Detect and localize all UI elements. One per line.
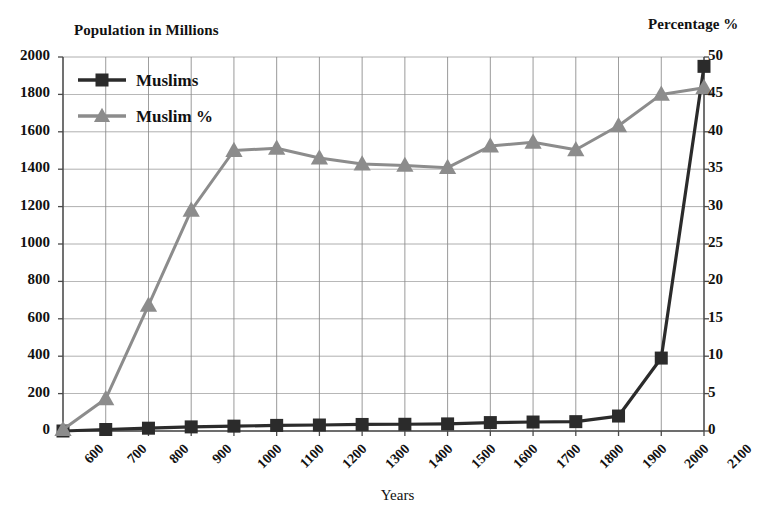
right-tick-label: 40 bbox=[708, 122, 723, 139]
left-tick-label: 200 bbox=[28, 384, 51, 401]
data-point-marker bbox=[524, 133, 541, 148]
right-tick-label: 10 bbox=[708, 346, 723, 363]
left-tick-label: 1000 bbox=[20, 234, 50, 251]
data-point-marker bbox=[227, 420, 240, 433]
right-tick-label: 45 bbox=[708, 84, 723, 101]
series-muslim bbox=[54, 79, 712, 436]
data-point-marker bbox=[441, 417, 454, 430]
right-tick-label: 35 bbox=[708, 159, 723, 176]
right-tick-label: 20 bbox=[708, 271, 723, 288]
data-point-marker bbox=[612, 410, 625, 423]
right-tick-label: 0 bbox=[708, 421, 716, 438]
data-point-marker bbox=[99, 423, 112, 436]
left-tick-label: 1600 bbox=[20, 122, 50, 139]
legend-item-muslim[interactable]: Muslim % bbox=[78, 107, 213, 126]
legend-marker bbox=[96, 74, 109, 87]
left-tick-label: 1800 bbox=[20, 84, 50, 101]
right-tick-label: 50 bbox=[708, 47, 723, 64]
left-tick-label: 0 bbox=[43, 421, 51, 438]
plot-svg: MuslimsMuslim % bbox=[0, 0, 765, 523]
data-point-marker bbox=[97, 390, 114, 405]
data-point-marker bbox=[185, 420, 198, 433]
right-tick-label: 5 bbox=[708, 384, 716, 401]
right-tick-label: 30 bbox=[708, 197, 723, 214]
left-tick-label: 1200 bbox=[20, 197, 50, 214]
x-axis-title-text: Years bbox=[381, 487, 414, 503]
data-point-marker bbox=[655, 352, 668, 365]
data-point-marker bbox=[610, 117, 627, 132]
left-tick-label: 800 bbox=[28, 271, 51, 288]
data-point-marker bbox=[527, 416, 540, 429]
data-point-marker bbox=[398, 418, 411, 431]
left-tick-label: 400 bbox=[28, 346, 51, 363]
data-point-marker bbox=[356, 418, 369, 431]
legend-item-muslims[interactable]: Muslims bbox=[78, 71, 199, 90]
data-point-marker bbox=[484, 416, 497, 429]
legend-label: Muslim % bbox=[136, 107, 213, 126]
data-point-marker bbox=[142, 422, 155, 435]
legend-label: Muslims bbox=[136, 71, 199, 90]
left-tick-label: 600 bbox=[28, 309, 51, 326]
data-point-marker bbox=[270, 419, 283, 432]
data-point-marker bbox=[569, 415, 582, 428]
right-tick-label: 15 bbox=[708, 309, 723, 326]
chart-container: Population in Millions Percentage % Musl… bbox=[0, 0, 765, 523]
data-point-marker bbox=[313, 419, 326, 432]
right-tick-label: 25 bbox=[708, 234, 723, 251]
data-point-marker bbox=[268, 139, 285, 154]
data-point-marker bbox=[140, 297, 157, 312]
left-tick-label: 1400 bbox=[20, 159, 50, 176]
chart-legend: MuslimsMuslim % bbox=[78, 71, 213, 126]
x-axis-title: Years bbox=[0, 487, 765, 504]
left-tick-label: 2000 bbox=[20, 47, 50, 64]
